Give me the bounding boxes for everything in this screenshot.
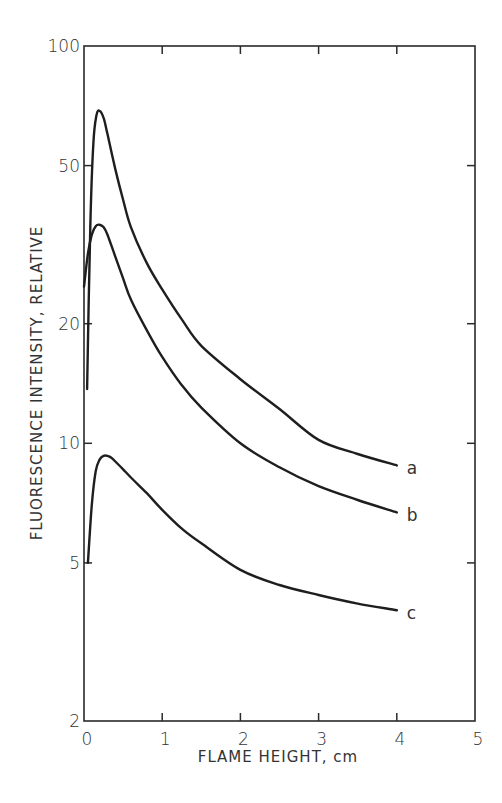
- x-tick-label: 2: [238, 729, 249, 749]
- plot-border: [84, 46, 475, 721]
- y-tick-label: 50: [58, 156, 80, 176]
- y-axis-title: FLUORESCENCE INTENSITY, RELATIVE: [28, 226, 46, 541]
- y-tick-label: 100: [48, 36, 80, 56]
- fluorescence-chart: 01234525102050100 abc FLAME HEIGHT, cm F…: [0, 0, 502, 803]
- y-tick-label: 20: [58, 314, 80, 334]
- y-tick-label: 10: [58, 433, 80, 453]
- x-axis-title: FLAME HEIGHT, cm: [198, 748, 358, 766]
- x-tick-label: 3: [316, 729, 327, 749]
- series-label-c: c: [407, 603, 416, 623]
- x-tick-label: 0: [82, 729, 93, 749]
- x-tick-label: 4: [394, 729, 405, 749]
- curve-c: [88, 455, 397, 610]
- x-tick-label: 1: [160, 729, 171, 749]
- axis-tick-labels: 01234525102050100: [48, 36, 484, 749]
- series-label-a: a: [407, 458, 417, 478]
- series-label-b: b: [407, 505, 418, 525]
- chart-canvas: 01234525102050100 abc FLAME HEIGHT, cm F…: [0, 0, 502, 803]
- curve-a: [87, 110, 397, 465]
- plot-frame: [84, 46, 475, 721]
- data-curves: [84, 110, 397, 610]
- series-labels: abc: [407, 458, 418, 623]
- y-tick-label: 2: [69, 711, 80, 731]
- axis-ticks: [84, 46, 475, 721]
- x-tick-label: 5: [473, 729, 484, 749]
- curve-b: [84, 225, 397, 513]
- y-tick-label: 5: [69, 553, 80, 573]
